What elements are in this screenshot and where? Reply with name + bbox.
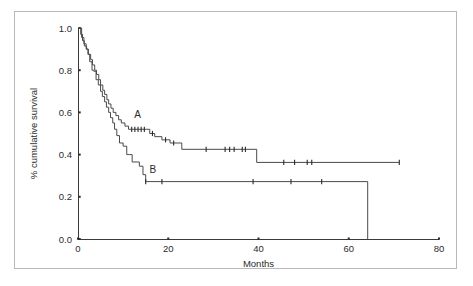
x-tick-label: 80 [434, 243, 445, 254]
y-tick-label: 1.0 [59, 23, 72, 34]
y-tick-label: 0.6 [59, 107, 72, 118]
x-tick-mark [258, 238, 260, 240]
x-tick-mark [438, 238, 440, 240]
y-tick-mark [79, 196, 81, 198]
y-tick-label: 0.2 [59, 191, 72, 202]
x-tick-label: 40 [253, 243, 264, 254]
y-tick-mark [79, 154, 81, 156]
survival-chart: 0204060800.00.20.40.60.81.0Months% cumul… [15, 12, 456, 268]
series-label-A: A [134, 109, 141, 120]
survival-curve-B [78, 28, 368, 239]
x-tick-mark [167, 238, 169, 240]
y-tick-mark [79, 238, 81, 240]
x-tick-mark [348, 238, 350, 240]
y-tick-mark [79, 69, 81, 71]
figure-frame: 0204060800.00.20.40.60.81.0Months% cumul… [14, 11, 457, 269]
survival-curve-A [78, 28, 399, 162]
y-tick-mark [79, 111, 81, 113]
x-axis-title: Months [243, 258, 274, 268]
y-tick-label: 0.0 [59, 234, 72, 245]
y-tick-label: 0.8 [59, 65, 72, 76]
y-axis-title: % cumulative survival [28, 88, 39, 179]
series-label-B: B [150, 164, 157, 175]
y-tick-label: 0.4 [59, 149, 72, 160]
x-tick-label: 60 [343, 243, 354, 254]
x-tick-label: 0 [75, 243, 80, 254]
x-tick-label: 20 [163, 243, 174, 254]
